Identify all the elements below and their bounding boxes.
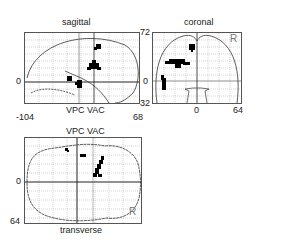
- sagittal-landmark-label: VPC VAC: [66, 105, 105, 115]
- coronal-x-zero: 0: [194, 105, 199, 115]
- coronal-view: [152, 32, 242, 104]
- coronal-title: coronal: [184, 17, 214, 27]
- coronal-side-label: R: [230, 34, 237, 44]
- sagittal-view: [24, 32, 140, 104]
- coronal-y-min: 32: [140, 98, 150, 108]
- transverse-view: [24, 137, 142, 224]
- coronal-y-max: 72: [140, 27, 150, 37]
- transverse-y-max: 64: [10, 216, 20, 226]
- transverse-title: transverse: [60, 225, 102, 235]
- sagittal-x-min: -104: [16, 112, 34, 122]
- coronal-zero-y: 0: [143, 76, 148, 86]
- sagittal-x-max: 68: [133, 112, 143, 122]
- coronal-x-max: 64: [233, 105, 243, 115]
- sagittal-title: sagittal: [62, 17, 91, 27]
- transverse-side-label: R: [129, 207, 136, 217]
- transverse-zero-label: 0: [16, 176, 21, 186]
- transverse-top-label: VPC VAC: [66, 126, 105, 136]
- sagittal-zero-label: 0: [16, 76, 21, 86]
